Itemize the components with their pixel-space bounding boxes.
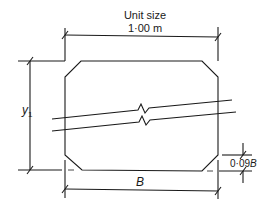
height-label: y1 bbox=[22, 103, 32, 119]
chamfer-symbol: B bbox=[250, 158, 257, 169]
width-label: B bbox=[136, 175, 144, 189]
width-dimension-line bbox=[65, 189, 218, 191]
chamfer-label: 0·09B bbox=[230, 158, 257, 169]
height-subscript: 1 bbox=[28, 110, 32, 119]
unit-size-title: Unit size bbox=[110, 9, 180, 21]
unit-size-value: 1·00 m bbox=[110, 22, 180, 34]
unit-size-dimension-line bbox=[65, 35, 218, 37]
chamfer-factor: 0·09 bbox=[230, 158, 250, 169]
